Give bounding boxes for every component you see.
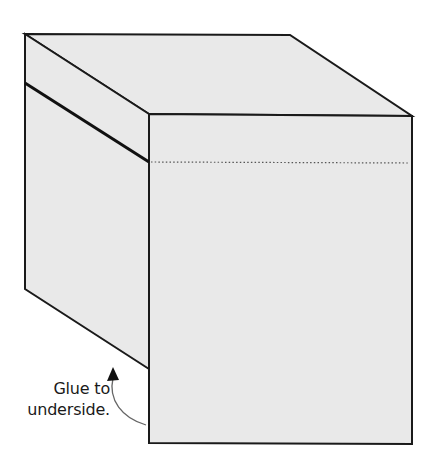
glue-instruction-label: Glue to underside. <box>27 378 110 420</box>
cube-diagram: Glue to underside. <box>0 0 435 467</box>
front-face <box>149 114 412 444</box>
label-line-1: Glue to <box>27 378 110 399</box>
label-line-2: underside. <box>27 399 110 420</box>
curved-arrow-icon <box>112 378 146 425</box>
